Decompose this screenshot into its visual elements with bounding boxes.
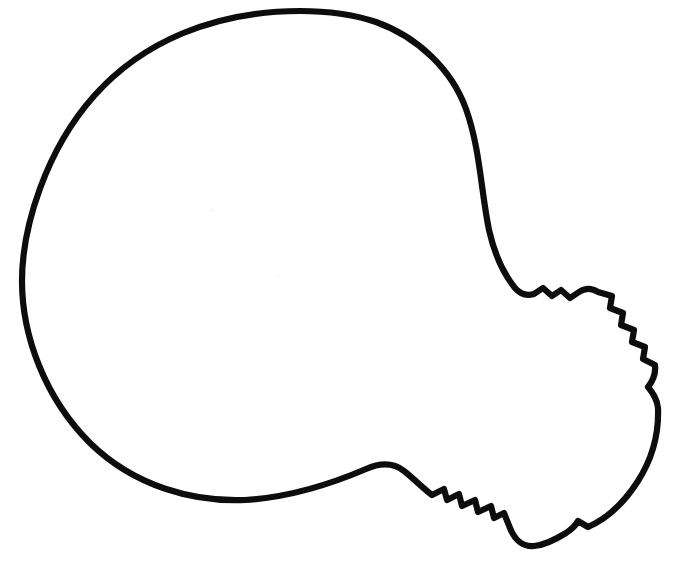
drawing-canvas: [0, 0, 675, 568]
light-bulb-outline-illustration: [0, 0, 675, 568]
